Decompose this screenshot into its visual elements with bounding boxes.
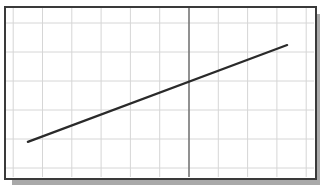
data-line	[28, 45, 287, 142]
line-plot	[0, 0, 320, 191]
